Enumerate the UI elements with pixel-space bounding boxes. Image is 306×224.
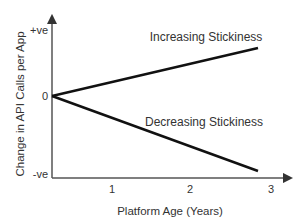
x-tick-2: 2: [187, 183, 193, 195]
increasing-stickiness-label: Increasing Stickiness: [150, 30, 263, 44]
increasing-stickiness-line: [52, 48, 258, 96]
y-tick-bottom: -ve: [33, 168, 48, 180]
chart: +ve 0 -ve 1 2 3 Platform Age (Years) Cha…: [0, 0, 306, 224]
x-tick-1: 1: [109, 183, 115, 195]
y-axis-title: Change in API Calls per App: [14, 31, 26, 176]
decreasing-stickiness-line: [52, 96, 258, 171]
x-axis-title: Platform Age (Years): [117, 205, 223, 217]
decreasing-stickiness-label: Decreasing Stickiness: [145, 115, 263, 129]
x-tick-3: 3: [268, 183, 274, 195]
y-tick-top: +ve: [30, 24, 48, 36]
y-tick-zero: 0: [42, 90, 48, 102]
